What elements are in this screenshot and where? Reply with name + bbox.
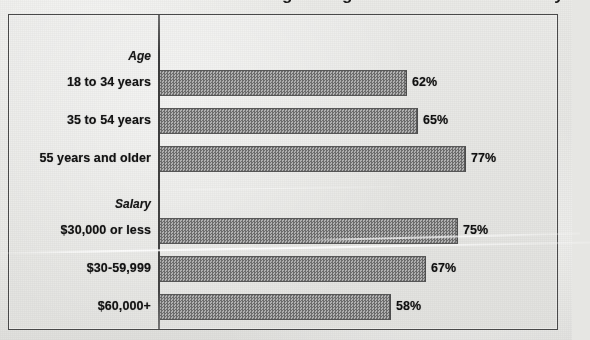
group-header-label: Age xyxy=(9,45,151,67)
group-header-row: Age xyxy=(9,45,557,71)
cut-off-title: Are You Doing Enough to Protect Your Pri… xyxy=(0,0,572,9)
bar-row: 35 to 54 years65% xyxy=(9,107,557,133)
bar-category-label: 55 years and older xyxy=(9,145,151,171)
group-header-row: Salary xyxy=(9,193,557,219)
bar-category-label: 35 to 54 years xyxy=(9,107,151,133)
bar-row: 18 to 34 years62% xyxy=(9,69,557,95)
bar xyxy=(160,146,466,172)
bar xyxy=(160,218,458,244)
bar-value-label: 62% xyxy=(412,70,437,94)
bar-category-label: $30,000 or less xyxy=(9,217,151,243)
bar-category-label: $30-59,999 xyxy=(9,255,151,281)
bar-value-label: 67% xyxy=(431,256,456,280)
cut-off-title-text: Are You Doing Enough to Protect Your Pri… xyxy=(171,0,572,5)
bar-value-label: 75% xyxy=(463,218,488,242)
bar xyxy=(160,256,426,282)
bar-value-label: 65% xyxy=(423,108,448,132)
bar-chart-plot-area: Age18 to 34 years62%35 to 54 years65%55 … xyxy=(9,15,557,329)
group-header-label: Salary xyxy=(9,193,151,215)
bar-value-label: 58% xyxy=(396,294,421,318)
bar-row: $60,000+58% xyxy=(9,293,557,319)
bar-category-label: $60,000+ xyxy=(9,293,151,319)
bar-category-label: 18 to 34 years xyxy=(9,69,151,95)
bar-row: 55 years and older77% xyxy=(9,145,557,171)
bar xyxy=(160,108,418,134)
bar-row: $30-59,99967% xyxy=(9,255,557,281)
chart-frame: Age18 to 34 years62%35 to 54 years65%55 … xyxy=(8,14,558,330)
bar xyxy=(160,294,391,320)
bar-value-label: 77% xyxy=(471,146,496,170)
bar xyxy=(160,70,407,96)
bar-row: $30,000 or less75% xyxy=(9,217,557,243)
